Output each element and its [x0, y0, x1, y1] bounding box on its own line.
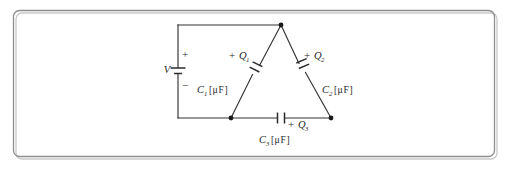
voltage-source-symbol [171, 68, 186, 74]
c1-unit-mu: μ [213, 84, 218, 95]
c2-plate-b [299, 64, 309, 68]
source-plus-label: + [182, 48, 188, 60]
circuit-nodes [229, 23, 334, 121]
node-apex [279, 23, 284, 28]
c1-unit-close: ] [225, 85, 228, 95]
frame-shadow [16, 13, 497, 159]
c2-unit-close: ] [350, 85, 353, 95]
capacitance-label-c2: C 2 [ μ F ] [322, 84, 353, 97]
c3-subscript: 3 [265, 140, 270, 147]
wire-c2-upper [281, 25, 299, 64]
capacitance-label-c3: C 3 [ μ F ] [259, 134, 290, 147]
figure-root: + V − + Q 1 C 1 [ μ F ] + Q 2 C 2 [ μ [0, 0, 509, 170]
charge-label-q3: + Q 3 [288, 118, 309, 132]
charge-label-q1: + Q 1 [229, 49, 249, 63]
c2-unit-mu: μ [338, 84, 343, 95]
c1-subscript: 1 [204, 90, 207, 97]
node-bottom-right [329, 116, 334, 121]
c1-plate-a [250, 67, 260, 72]
c1-unit-text: F [219, 85, 224, 95]
wire-c1-lower [231, 75, 253, 119]
wire-c2-lower [306, 73, 332, 119]
q1-subscript: 1 [246, 56, 249, 63]
c3-unit-mu: μ [275, 134, 280, 145]
source-voltage-label: V [164, 64, 172, 75]
q3-sign: + [288, 118, 294, 130]
q2-sign: + [304, 49, 310, 61]
c2-subscript: 2 [329, 90, 333, 97]
q3-subscript: 3 [304, 125, 309, 132]
capacitor-c3-plates [278, 113, 285, 124]
c3-unit-close: ] [287, 135, 290, 145]
capacitance-label-c1: C 1 [ μ F ] [197, 84, 228, 97]
q1-sign: + [229, 49, 235, 61]
source-minus-label: − [182, 79, 188, 91]
circuit-diagram: + V − + Q 1 C 1 [ μ F ] + Q 2 C 2 [ μ [0, 0, 509, 170]
c3-unit-text: F [281, 135, 286, 145]
circuit-wiring [178, 25, 331, 118]
charge-label-q2: + Q 2 [304, 49, 325, 63]
c2-unit-text: F [344, 85, 349, 95]
node-bottom-left [229, 116, 234, 121]
figure-frame [14, 11, 498, 160]
q2-subscript: 2 [321, 56, 325, 63]
frame-border [14, 11, 495, 157]
wire-c1-upper [260, 25, 282, 66]
